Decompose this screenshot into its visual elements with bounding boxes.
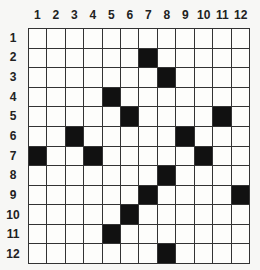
- white-cell[interactable]: [195, 225, 212, 244]
- white-cell[interactable]: [47, 107, 64, 126]
- white-cell[interactable]: [47, 166, 64, 185]
- white-cell[interactable]: [84, 88, 101, 107]
- white-cell[interactable]: [213, 68, 230, 87]
- white-cell[interactable]: [176, 186, 193, 205]
- white-cell[interactable]: [29, 244, 46, 263]
- white-cell[interactable]: [84, 225, 101, 244]
- white-cell[interactable]: [232, 49, 249, 68]
- white-cell[interactable]: [84, 127, 101, 146]
- white-cell[interactable]: [121, 49, 138, 68]
- white-cell[interactable]: [195, 205, 212, 224]
- white-cell[interactable]: [47, 49, 64, 68]
- white-cell[interactable]: [213, 166, 230, 185]
- white-cell[interactable]: [195, 88, 212, 107]
- white-cell[interactable]: [195, 68, 212, 87]
- white-cell[interactable]: [232, 88, 249, 107]
- white-cell[interactable]: [66, 68, 83, 87]
- white-cell[interactable]: [84, 186, 101, 205]
- white-cell[interactable]: [29, 225, 46, 244]
- white-cell[interactable]: [47, 88, 64, 107]
- white-cell[interactable]: [103, 29, 120, 48]
- white-cell[interactable]: [66, 147, 83, 166]
- white-cell[interactable]: [213, 29, 230, 48]
- white-cell[interactable]: [176, 68, 193, 87]
- white-cell[interactable]: [213, 49, 230, 68]
- white-cell[interactable]: [121, 29, 138, 48]
- white-cell[interactable]: [84, 107, 101, 126]
- white-cell[interactable]: [232, 225, 249, 244]
- white-cell[interactable]: [139, 88, 156, 107]
- white-cell[interactable]: [47, 147, 64, 166]
- white-cell[interactable]: [84, 29, 101, 48]
- white-cell[interactable]: [103, 205, 120, 224]
- white-cell[interactable]: [66, 205, 83, 224]
- white-cell[interactable]: [195, 49, 212, 68]
- white-cell[interactable]: [195, 29, 212, 48]
- white-cell[interactable]: [139, 68, 156, 87]
- white-cell[interactable]: [213, 127, 230, 146]
- white-cell[interactable]: [232, 68, 249, 87]
- white-cell[interactable]: [84, 244, 101, 263]
- white-cell[interactable]: [195, 186, 212, 205]
- white-cell[interactable]: [176, 147, 193, 166]
- white-cell[interactable]: [121, 68, 138, 87]
- white-cell[interactable]: [139, 107, 156, 126]
- white-cell[interactable]: [213, 88, 230, 107]
- white-cell[interactable]: [213, 244, 230, 263]
- white-cell[interactable]: [103, 147, 120, 166]
- white-cell[interactable]: [176, 166, 193, 185]
- white-cell[interactable]: [139, 29, 156, 48]
- white-cell[interactable]: [195, 127, 212, 146]
- white-cell[interactable]: [176, 88, 193, 107]
- white-cell[interactable]: [29, 29, 46, 48]
- white-cell[interactable]: [66, 225, 83, 244]
- white-cell[interactable]: [195, 107, 212, 126]
- white-cell[interactable]: [158, 127, 175, 146]
- white-cell[interactable]: [213, 225, 230, 244]
- white-cell[interactable]: [47, 68, 64, 87]
- white-cell[interactable]: [176, 107, 193, 126]
- white-cell[interactable]: [176, 29, 193, 48]
- white-cell[interactable]: [103, 68, 120, 87]
- white-cell[interactable]: [158, 107, 175, 126]
- white-cell[interactable]: [29, 49, 46, 68]
- white-cell[interactable]: [121, 147, 138, 166]
- white-cell[interactable]: [121, 127, 138, 146]
- white-cell[interactable]: [213, 147, 230, 166]
- white-cell[interactable]: [47, 225, 64, 244]
- white-cell[interactable]: [84, 49, 101, 68]
- white-cell[interactable]: [103, 186, 120, 205]
- white-cell[interactable]: [66, 49, 83, 68]
- white-cell[interactable]: [103, 244, 120, 263]
- white-cell[interactable]: [232, 205, 249, 224]
- white-cell[interactable]: [158, 186, 175, 205]
- white-cell[interactable]: [158, 225, 175, 244]
- white-cell[interactable]: [176, 205, 193, 224]
- white-cell[interactable]: [232, 107, 249, 126]
- white-cell[interactable]: [139, 205, 156, 224]
- white-cell[interactable]: [84, 68, 101, 87]
- white-cell[interactable]: [213, 205, 230, 224]
- white-cell[interactable]: [29, 68, 46, 87]
- white-cell[interactable]: [121, 88, 138, 107]
- white-cell[interactable]: [47, 205, 64, 224]
- white-cell[interactable]: [47, 244, 64, 263]
- white-cell[interactable]: [29, 186, 46, 205]
- white-cell[interactable]: [158, 205, 175, 224]
- white-cell[interactable]: [195, 244, 212, 263]
- white-cell[interactable]: [47, 127, 64, 146]
- white-cell[interactable]: [232, 29, 249, 48]
- white-cell[interactable]: [121, 166, 138, 185]
- white-cell[interactable]: [66, 244, 83, 263]
- white-cell[interactable]: [29, 205, 46, 224]
- white-cell[interactable]: [139, 147, 156, 166]
- white-cell[interactable]: [84, 205, 101, 224]
- white-cell[interactable]: [158, 29, 175, 48]
- white-cell[interactable]: [121, 186, 138, 205]
- white-cell[interactable]: [66, 29, 83, 48]
- white-cell[interactable]: [84, 166, 101, 185]
- white-cell[interactable]: [139, 244, 156, 263]
- white-cell[interactable]: [158, 147, 175, 166]
- white-cell[interactable]: [47, 29, 64, 48]
- white-cell[interactable]: [29, 166, 46, 185]
